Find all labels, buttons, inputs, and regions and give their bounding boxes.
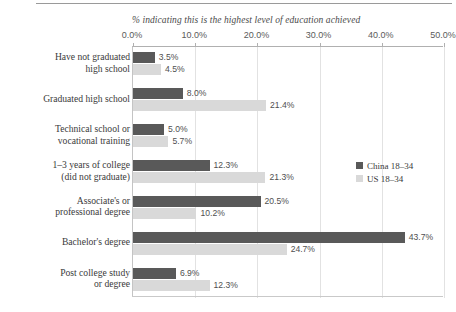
y-axis-category-label: Have not graduated high school <box>2 51 130 74</box>
bar <box>133 280 210 291</box>
bar-value-label: 3.5% <box>159 52 179 63</box>
bar <box>133 196 261 207</box>
bar-value-label: 10.2% <box>200 208 224 219</box>
bar-value-label: 12.3% <box>214 160 238 171</box>
bar-value-label: 4.5% <box>165 64 185 75</box>
bar <box>133 136 168 147</box>
bar <box>133 232 405 243</box>
bar-value-label: 6.9% <box>180 268 200 279</box>
bar <box>133 208 196 219</box>
bar-value-label: 21.3% <box>269 172 293 183</box>
legend-label: US 18–34 <box>367 174 403 184</box>
legend-swatch-icon <box>356 162 363 169</box>
bar <box>133 88 183 99</box>
y-axis-category-label: Associate's or professional degree <box>2 195 130 218</box>
bar-value-label: 12.3% <box>214 280 238 291</box>
x-tick-label: 20.0% <box>244 30 270 40</box>
bar-value-label: 5.0% <box>168 124 188 135</box>
x-axis-tickmark <box>444 43 445 47</box>
bar-value-label: 8.0% <box>187 88 207 99</box>
y-axis-category-label: Bachelor's degree <box>2 236 130 248</box>
bar <box>133 268 176 279</box>
legend-item: China 18–34 <box>356 160 448 171</box>
bar-value-label: 21.4% <box>270 100 294 111</box>
bar-value-label: 5.7% <box>172 136 192 147</box>
y-axis-category-label: Post college study or degree <box>2 267 130 290</box>
x-tick-label: 10.0% <box>181 30 207 40</box>
legend-swatch-icon <box>356 175 363 182</box>
x-axis-tick-labels: 0.0%10.0%20.0%30.0%40.0%50.0% <box>0 30 454 44</box>
chart-legend: China 18–34US 18–34 <box>356 160 448 186</box>
top-divider-rule <box>36 3 452 4</box>
bar <box>133 244 287 255</box>
y-axis-category-label: Technical school or vocational training <box>2 123 130 146</box>
bar <box>133 64 161 75</box>
x-tick-label: 0.0% <box>122 30 143 40</box>
x-tick-label: 30.0% <box>306 30 332 40</box>
y-axis-category-label: 1–3 years of college (did not graduate) <box>2 159 130 182</box>
bar <box>133 160 210 171</box>
y-axis-category-labels: Have not graduated high schoolGraduated … <box>0 46 130 297</box>
bar-value-label: 43.7% <box>409 232 433 243</box>
bar <box>133 172 265 183</box>
x-axis-title: % indicating this is the highest level o… <box>132 15 360 25</box>
bar-value-label: 24.7% <box>291 244 315 255</box>
bar-value-label: 20.5% <box>265 196 289 207</box>
x-tick-label: 50.0% <box>430 30 456 40</box>
legend-label: China 18–34 <box>367 161 413 171</box>
legend-item: US 18–34 <box>356 173 448 184</box>
x-tick-label: 40.0% <box>368 30 394 40</box>
bar <box>133 100 266 111</box>
bar <box>133 124 164 135</box>
y-axis-category-label: Graduated high school <box>2 93 130 105</box>
bar <box>133 52 155 63</box>
